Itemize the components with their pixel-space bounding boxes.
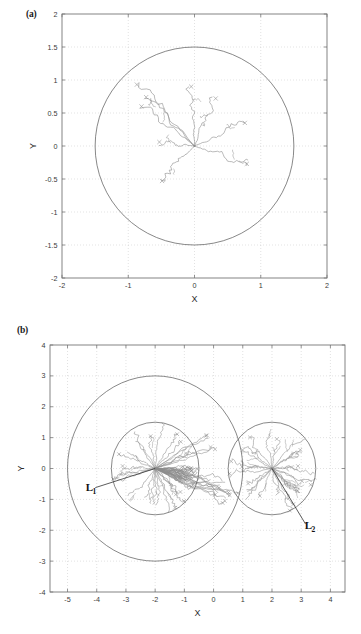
y-tick-label: 2	[54, 10, 58, 19]
trajectory-filament	[202, 123, 204, 126]
tick-labels: -2-1012-2-1.5-1-0.500.511.52XY	[28, 10, 329, 304]
x-axis-title: X	[191, 294, 197, 304]
y-tick-label: 1	[54, 76, 58, 85]
trajectory-filament	[152, 437, 154, 448]
trajectory-filament	[247, 487, 254, 492]
trajectory-branch	[155, 423, 164, 469]
trajectory-filament	[292, 440, 294, 447]
y-axis-title: Y	[28, 143, 38, 149]
y-tick-label: 4	[42, 341, 46, 350]
x-tick-label: -1	[181, 595, 187, 604]
trajectory-branch	[127, 452, 155, 469]
annotation-subscript-l1: 1	[93, 487, 97, 496]
panel-b: (b) -5-4-3-2-101234-4-3-2-101234XYL1L2	[0, 316, 361, 634]
x-tick-label: -2	[152, 595, 158, 604]
trajectory-filament	[272, 448, 275, 452]
panel-b-tag: (b)	[17, 325, 28, 335]
x-tick-label: 1	[259, 281, 263, 290]
x-tick-label: -1	[125, 281, 131, 290]
panel-a: (a) -2-1012-2-1.5-1-0.500.511.52XY	[0, 0, 361, 318]
x-tick-label: 2	[270, 595, 274, 604]
trajectory-branch	[195, 121, 245, 146]
y-tick-label: -4	[39, 588, 45, 597]
panel-a-plot: -2-1012-2-1.5-1-0.500.511.52XY	[0, 0, 361, 318]
trajectory-filament	[267, 429, 270, 439]
trajectory-filament	[274, 446, 280, 454]
trajectory-branch	[230, 469, 272, 478]
y-tick-label: 0.5	[48, 109, 58, 118]
x-tick-label: 0	[193, 281, 197, 290]
x-tick-label: -3	[123, 595, 129, 604]
figure-container: (a) -2-1012-2-1.5-1-0.500.511.52XY (b) -…	[0, 0, 361, 634]
y-tick-label: -2	[39, 526, 45, 535]
trajectory-filament	[265, 483, 266, 491]
trajectory-branch	[144, 469, 155, 498]
y-tick-label: -1	[51, 208, 57, 217]
trajectory-lines	[135, 83, 249, 184]
trajectory-filament	[179, 447, 186, 457]
source-point	[193, 145, 195, 147]
trajectory-filament	[163, 113, 165, 123]
panel-b-plot: -5-4-3-2-101234-4-3-2-101234XYL1L2	[0, 316, 361, 634]
trajectory-branch	[139, 83, 195, 146]
y-tick-label: 1	[42, 433, 46, 442]
y-tick-label: 3	[42, 371, 46, 380]
trajectory-branch	[161, 146, 195, 181]
trajectory-branch	[195, 146, 249, 163]
y-tick-label: 0	[54, 142, 58, 151]
x-axis-title: X	[194, 608, 200, 618]
trajectory-bundle-branch	[155, 448, 211, 468]
x-tick-label: -4	[94, 595, 100, 604]
x-tick-label: -2	[59, 281, 65, 290]
y-tick-label: 1.5	[48, 43, 58, 52]
trajectory-filament	[173, 169, 174, 175]
x-tick-label: 4	[328, 595, 332, 604]
y-tick-label: -3	[39, 557, 45, 566]
panel-a-tag: (a)	[26, 9, 36, 19]
tick-labels: -5-4-3-2-101234-4-3-2-101234XY	[16, 341, 332, 618]
x-tick-label: -5	[64, 595, 70, 604]
x-tick-label: 3	[299, 595, 303, 604]
trajectory-filament	[166, 135, 170, 144]
annotation-leader-line-l1	[95, 469, 155, 488]
y-tick-label: 2	[42, 402, 46, 411]
y-tick-label: -1	[39, 495, 45, 504]
y-tick-label: -1.5	[45, 241, 57, 250]
trajectory-branch	[250, 437, 272, 468]
trajectory-branch	[272, 439, 305, 468]
y-tick-label: -0.5	[45, 175, 57, 184]
trajectory-filament	[233, 150, 235, 160]
trajectory-filament	[285, 439, 287, 451]
trajectory-branch	[136, 441, 156, 468]
trajectory-lines	[111, 423, 316, 513]
x-tick-label: 2	[325, 281, 329, 290]
annotation-subscript-l2: 2	[312, 525, 316, 534]
trajectory-branch	[272, 440, 280, 469]
x-tick-label: 1	[241, 595, 245, 604]
y-axis-title: Y	[16, 465, 26, 471]
y-tick-label: 0	[42, 464, 46, 473]
trajectory-branch	[272, 469, 301, 485]
annotation-leader-line-l2	[272, 469, 306, 525]
x-tick-label: 0	[212, 595, 216, 604]
trajectory-branch	[145, 98, 195, 146]
y-tick-label: -2	[51, 274, 57, 283]
